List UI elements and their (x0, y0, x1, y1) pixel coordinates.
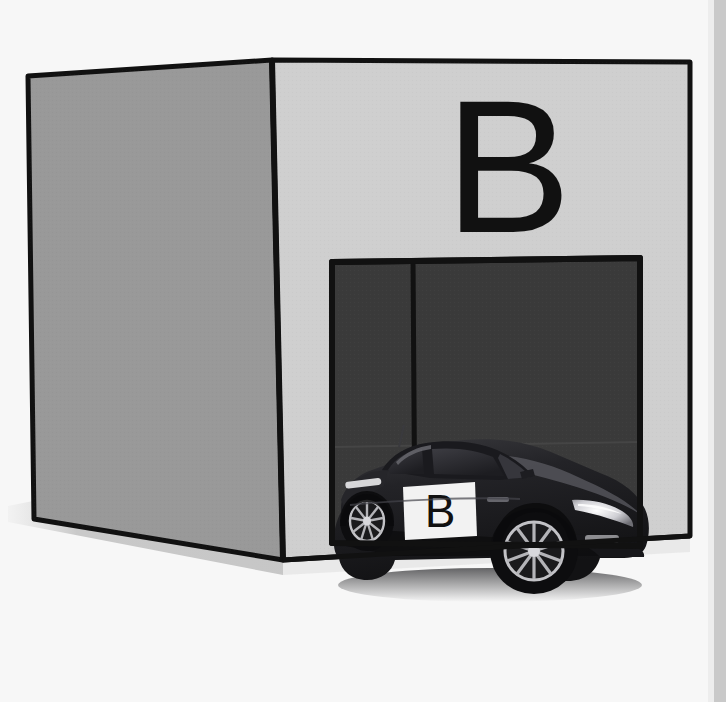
building-side-face-texture (28, 60, 283, 560)
scene-root: B (0, 0, 726, 702)
car-door-placard-letter: B (425, 485, 456, 537)
rear-hub-cap (363, 517, 371, 526)
building-label-letter: B (445, 60, 572, 272)
scene-illustration: B (0, 0, 726, 702)
page-margin-light (708, 0, 714, 702)
page-margin-band (714, 0, 726, 702)
